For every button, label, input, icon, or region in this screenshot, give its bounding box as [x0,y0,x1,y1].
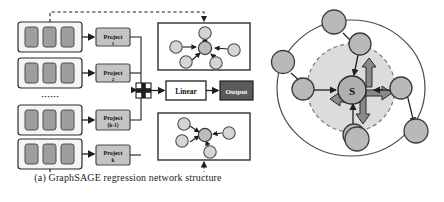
project-block-4-index: k [112,157,115,163]
project-block-2-label: Project [103,69,123,76]
linear-box: Linear [166,81,206,100]
inner-neighbor-node-top [349,33,371,55]
feature-block-3 [18,105,82,135]
outer-neighbor-node-bottom [345,127,369,151]
project-block-4: Project k [96,145,130,165]
feature-blocks-ellipsis: ······ [41,91,59,101]
panel-node-aggregation: S (b) Node aggregation [256,0,444,202]
project-block-3-label: Project [103,114,123,121]
feature-block-1 [18,22,82,52]
project-block-3: Project (k-1) [96,110,130,130]
outer-neighbor-node-top [322,10,346,34]
feature-block-2 [18,58,82,88]
center-node-s: S [338,76,366,104]
panel-a-diagram: ······ Project 1 Project 2 Project [0,0,256,172]
output-box-label: Output [226,88,248,96]
inner-neighbor-node-right [390,77,412,99]
project-block-1: Project 1 [96,28,130,46]
project-block-4-label: Project [103,149,123,156]
aggregation-graph-top [158,23,250,70]
figure-root: ······ Project 1 Project 2 Project [0,0,444,202]
project-block-3-index: (k-1) [107,122,118,129]
panel-graphsage-regression-network: ······ Project 1 Project 2 Project [0,0,256,202]
outer-neighbor-node-left [272,51,295,74]
feature-block-4 [18,139,82,169]
output-box: Output [220,81,253,100]
aggregation-graph-bottom [158,113,250,160]
project-block-2: Project 2 [96,64,130,82]
dashed-feedback-top [50,12,204,22]
panel-b-diagram: S [256,0,444,172]
project-block-1-label: Project [103,33,123,40]
inner-neighbor-node-left [292,78,314,100]
concat-plus-icon [136,83,151,98]
outer-neighbor-node-right [404,119,428,143]
caption-panel-a: (a) GraphSAGE regression network structu… [0,172,256,183]
linear-box-label: Linear [175,87,197,96]
center-node-label: S [349,85,355,97]
